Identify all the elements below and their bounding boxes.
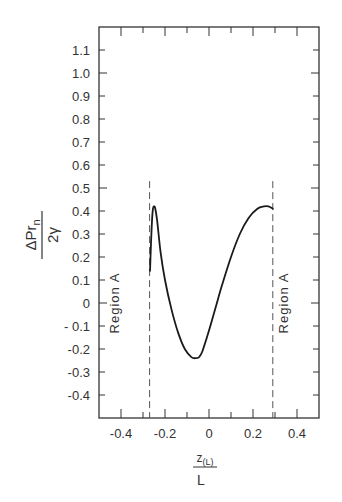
x-tick-label: 0 (205, 426, 212, 441)
x-tick-label: 0.2 (244, 426, 262, 441)
y-tick-label: -0.4 (68, 388, 90, 403)
region-a-label: Region A (276, 273, 291, 334)
y-tick-label: -0.3 (68, 365, 90, 380)
y-axis-label: ΔPrn 2γ (22, 211, 61, 259)
y-tick-label: 0.5 (72, 181, 90, 196)
y-tick-label: 0 (83, 296, 90, 311)
y-axis-ticks: 1.11.00.90.80.70.60.50.40.30.20.10- 0.1-… (64, 43, 319, 403)
x-label-denominator: L (197, 472, 205, 488)
chart: -0.4-0.200.20.4 1.11.00.90.80.70.60.50.4… (0, 0, 342, 502)
y-tick-label: - 0.1 (64, 319, 90, 334)
plot-frame (99, 27, 319, 418)
y-tick-label: 0.1 (72, 273, 90, 288)
y-label-numerator: ΔPrn (22, 219, 42, 250)
y-tick-label: 0.6 (72, 158, 90, 173)
x-tick-label: -0.2 (154, 426, 176, 441)
x-axis-ticks: -0.4-0.200.20.4 (110, 27, 306, 441)
y-tick-label: 1.1 (72, 43, 90, 58)
data-curve (150, 206, 273, 358)
y-label-denominator: 2γ (44, 227, 61, 243)
y-tick-label: 0.2 (72, 250, 90, 265)
y-tick-label: 1.0 (72, 66, 90, 81)
region-a-label: Region A (107, 273, 122, 334)
x-axis-label: z(L) L (193, 451, 217, 488)
region-boundary-lines (150, 181, 273, 418)
y-tick-label: 0.7 (72, 135, 90, 150)
y-tick-label: 0.3 (72, 227, 90, 242)
y-tick-label: 0.9 (72, 89, 90, 104)
x-label-numerator: z(L) (197, 451, 214, 467)
y-tick-label: -0.2 (68, 342, 90, 357)
region-annotations: Region ARegion A (107, 273, 291, 334)
x-tick-label: 0.4 (288, 426, 306, 441)
y-tick-label: 0.8 (72, 112, 90, 127)
plot-border (99, 27, 319, 418)
y-tick-label: 0.4 (72, 204, 90, 219)
x-tick-label: -0.4 (110, 426, 132, 441)
